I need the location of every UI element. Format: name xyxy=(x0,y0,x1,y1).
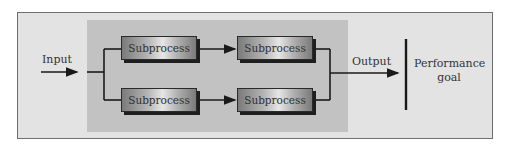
goal-label-line2: goal xyxy=(414,71,484,84)
goal-label-line1: Performance xyxy=(414,57,484,70)
subprocess-label: Subprocess xyxy=(128,42,190,54)
subprocess-box-top-left: Subprocess xyxy=(121,36,197,60)
output-label: Output xyxy=(352,55,391,68)
subprocess-label: Subprocess xyxy=(244,42,306,54)
input-label: Input xyxy=(42,53,72,66)
subprocess-label: Subprocess xyxy=(244,94,306,106)
subprocess-label: Subprocess xyxy=(128,94,190,106)
subprocess-box-bottom-left: Subprocess xyxy=(121,88,197,112)
subprocess-box-bottom-right: Subprocess xyxy=(237,88,313,112)
subprocess-box-top-right: Subprocess xyxy=(237,36,313,60)
